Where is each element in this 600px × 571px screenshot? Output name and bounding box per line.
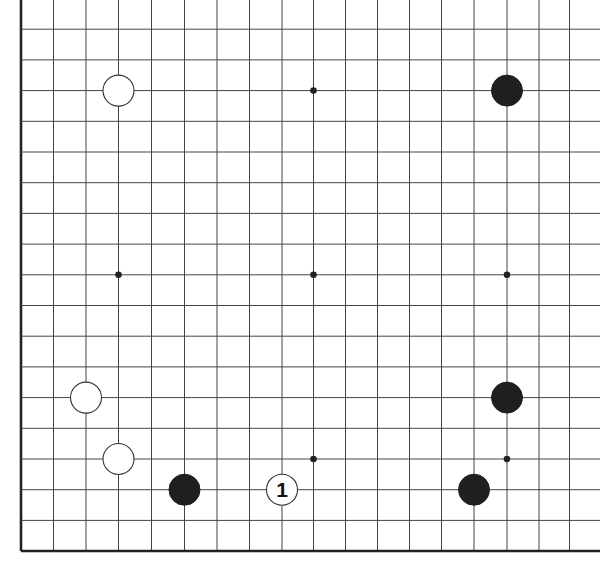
black-stone-icon [492,382,523,413]
go-board[interactable]: 1 [0,0,600,571]
white-stone-icon [103,444,134,475]
move-number-label: 1 [276,478,288,501]
black-stone[interactable] [169,474,200,505]
star-point-icon [115,272,122,279]
star-point-icon [310,87,317,94]
black-stone-icon [169,474,200,505]
black-stone[interactable] [459,474,490,505]
white-stone[interactable] [71,382,102,413]
white-stone[interactable] [103,75,134,106]
star-point-icon [310,272,317,279]
white-stone-icon [71,382,102,413]
white-stone-move-1[interactable]: 1 [267,474,298,505]
white-stone-icon [103,75,134,106]
black-stone-icon [459,474,490,505]
star-point-icon [504,272,511,279]
black-stone[interactable] [492,75,523,106]
stones: 1 [71,75,523,505]
white-stone[interactable] [103,444,134,475]
black-stone-icon [492,75,523,106]
black-stone[interactable] [492,382,523,413]
star-point-icon [504,456,511,463]
star-point-icon [310,456,317,463]
